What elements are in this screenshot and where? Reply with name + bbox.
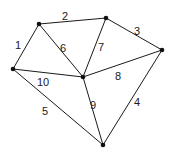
edge-8 — [83, 50, 162, 77]
edge-label-10: 10 — [37, 76, 49, 88]
vertex-F — [101, 143, 106, 148]
edge-9 — [83, 77, 103, 145]
vertex-A — [37, 22, 42, 27]
edge-4 — [103, 50, 162, 145]
vertex-D — [11, 67, 16, 72]
edge-2 — [39, 18, 106, 24]
edge-label-1: 1 — [15, 39, 21, 51]
edges — [13, 18, 162, 145]
edge-label-7: 7 — [98, 41, 104, 53]
vertex-B — [104, 16, 109, 21]
edge-label-5: 5 — [42, 105, 48, 117]
edge-label-9: 9 — [90, 99, 96, 111]
edge-label-6: 6 — [60, 42, 66, 54]
edge-label-3: 3 — [134, 25, 140, 37]
edge-label-4: 4 — [134, 96, 140, 108]
graph-diagram: 12345678910 — [0, 0, 175, 158]
vertices — [11, 16, 165, 148]
edge-label-2: 2 — [62, 10, 68, 22]
vertex-E — [81, 75, 86, 80]
vertex-C — [160, 48, 165, 53]
edge-label-8: 8 — [115, 70, 121, 82]
